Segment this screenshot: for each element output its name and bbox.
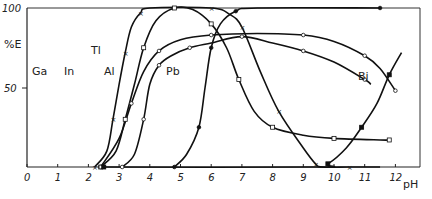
marker-in — [332, 136, 336, 140]
marker-tl — [130, 102, 134, 106]
marker-al — [302, 49, 306, 53]
y-axis-label: %E — [4, 38, 21, 51]
label-al: Al — [104, 65, 115, 78]
marker-tl — [157, 49, 161, 53]
marker-tl — [363, 54, 367, 58]
marker-bi — [387, 73, 391, 77]
marker-ga: × — [313, 161, 319, 169]
x-tick-label: 12 — [389, 172, 402, 183]
label-tl: Tl — [90, 44, 101, 57]
marker-pb — [234, 9, 238, 13]
marker-ga: × — [92, 164, 98, 172]
x-tick-label: 7 — [239, 172, 246, 183]
marker-in — [142, 46, 146, 50]
x-tick-label: 0 — [24, 172, 30, 183]
marker-ga: × — [110, 116, 116, 124]
marker-al — [157, 63, 161, 67]
x-tick-label: 11 — [359, 172, 372, 183]
label-pb: Pb — [166, 65, 180, 78]
marker-al — [240, 35, 244, 39]
x-tick-label: 5 — [178, 172, 184, 183]
x-tick-label: 4 — [147, 172, 153, 183]
chart-canvas: 100 50 %E pH 0123456789101112 ××××××××× … — [0, 0, 432, 199]
x-tick-label: 10 — [328, 172, 341, 183]
marker-bi — [360, 125, 364, 129]
marker-al — [188, 46, 192, 50]
curve-pb — [174, 8, 380, 167]
marker-tl — [302, 33, 306, 37]
marker-pb — [378, 6, 382, 10]
label-bi: Bi — [358, 70, 369, 83]
marker-ga: × — [239, 24, 245, 32]
marker-in — [209, 22, 213, 26]
marker-pb — [209, 46, 213, 50]
marker-in — [172, 6, 176, 10]
marker-in — [387, 138, 391, 142]
marker-al — [120, 165, 124, 169]
marker-ga: × — [123, 50, 129, 58]
x-tick-label: 9 — [300, 172, 306, 183]
marker-tl — [394, 89, 398, 93]
y-tick-label-100: 100 — [2, 3, 21, 14]
curve-al — [122, 37, 371, 167]
x-tick-label: 2 — [85, 172, 91, 183]
x-axis-label: pH — [403, 178, 418, 191]
x-tick-label: 1 — [55, 172, 61, 183]
curves — [95, 7, 402, 167]
marker-in — [123, 117, 127, 121]
marker-ga: × — [276, 108, 282, 116]
x-tick-label: 8 — [270, 172, 276, 183]
marker-al — [142, 118, 146, 122]
marker-pb — [173, 165, 177, 169]
x-tick-label: 3 — [116, 172, 122, 183]
marker-tl — [209, 33, 213, 37]
marker-bi — [102, 165, 106, 169]
label-ga: Ga — [32, 65, 47, 78]
marker-bi — [326, 162, 330, 166]
y-tick-label-50: 50 — [4, 83, 17, 94]
marker-ga: × — [138, 10, 144, 18]
extraction-chart: 100 50 %E pH 0123456789101112 ××××××××× … — [0, 0, 432, 199]
marker-ga: × — [209, 5, 215, 13]
marker-ga: × — [347, 164, 353, 172]
x-tick-label: 6 — [208, 172, 214, 183]
label-in: In — [64, 65, 74, 78]
marker-in — [237, 78, 241, 82]
marker-in — [271, 125, 275, 129]
marker-pb — [197, 125, 201, 129]
